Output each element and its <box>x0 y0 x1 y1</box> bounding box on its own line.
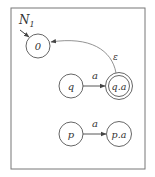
state-q: q <box>59 74 83 98</box>
automaton-title: N1 <box>18 13 35 29</box>
epsilon-label: ε <box>113 52 118 62</box>
start-arrow <box>20 30 29 37</box>
state-p: p <box>59 122 83 146</box>
state-p-label: p <box>68 129 75 140</box>
state-0: 0 <box>26 34 50 58</box>
transition-p-pa-label: a <box>92 118 98 129</box>
state-qa-accepting: q.a <box>106 73 133 100</box>
state-pa: p.a <box>107 122 132 147</box>
transition-q-qa-label: a <box>92 70 98 81</box>
state-q-label: q <box>68 81 74 92</box>
state-qa-label: q.a <box>112 81 127 92</box>
epsilon-transition <box>51 41 116 73</box>
nfa-diagram: N1 0 ε q a q.a p a p.a <box>0 0 155 177</box>
state-pa-label: p.a <box>112 129 127 140</box>
state-0-label: 0 <box>35 41 42 52</box>
